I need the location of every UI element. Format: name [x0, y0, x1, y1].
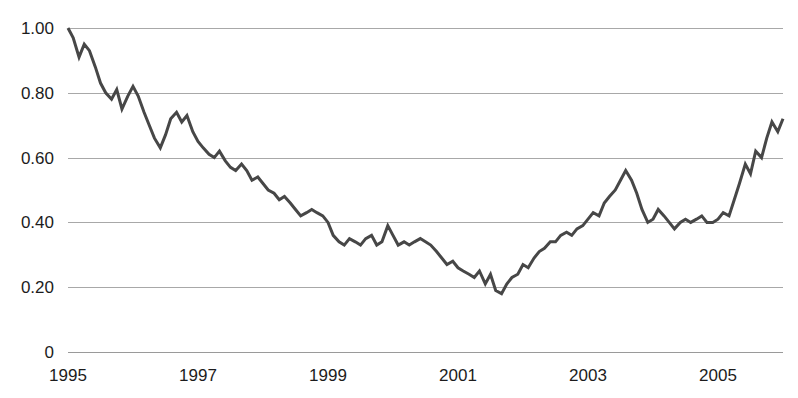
- y-tick-label: 0: [45, 343, 54, 362]
- y-tick-label: 0.40: [21, 213, 54, 232]
- y-tick-label: 0.20: [21, 278, 54, 297]
- chart-canvas: 00.200.400.600.801.00 199519971999200120…: [0, 0, 798, 398]
- x-tick-label: 2003: [569, 366, 607, 385]
- line-chart: 00.200.400.600.801.00 199519971999200120…: [0, 0, 798, 398]
- x-tick-label: 1999: [309, 366, 347, 385]
- y-tick-label: 0.80: [21, 84, 54, 103]
- y-tick-label: 1.00: [21, 19, 54, 38]
- x-tick-label: 1995: [49, 366, 87, 385]
- x-tick-label: 2001: [439, 366, 477, 385]
- y-tick-label: 0.60: [21, 149, 54, 168]
- x-tick-label: 1997: [179, 366, 217, 385]
- chart-background: [0, 0, 798, 398]
- x-tick-label: 2005: [699, 366, 737, 385]
